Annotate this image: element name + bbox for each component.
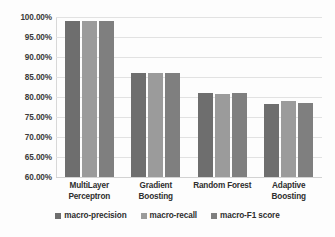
legend-item[interactable]: macro-recall [141,211,198,220]
legend-swatch-icon [211,213,217,219]
x-axis: MultiLayer PerceptronGradient BoostingRa… [56,179,322,209]
y-axis: 100.00%95.00%90.00%85.00%80.00%75.00%70.… [0,0,52,237]
y-axis-tick-label: 80.00% [0,93,52,102]
x-axis-category-label: MultiLayer Perceptron [56,179,123,209]
y-axis-tick-label: 85.00% [0,73,52,82]
y-axis-tick-label: 90.00% [0,53,52,62]
legend-item[interactable]: macro-F1 score [211,211,280,220]
plot-area [56,17,322,177]
bar [264,104,279,177]
bar [165,73,180,177]
y-axis-tick-label: 95.00% [0,33,52,42]
bar [281,101,296,177]
y-axis-tick-label: 60.00% [0,173,52,182]
bar [198,93,213,177]
bar [298,103,313,177]
bar-groups [56,17,322,177]
bar-group [189,17,256,177]
bar [215,94,230,177]
bar-group [123,17,190,177]
legend-item[interactable]: macro-precision [55,211,126,220]
bar [65,21,80,177]
y-axis-tick-label: 100.00% [0,13,52,22]
bar [148,73,163,177]
legend-label: macro-recall [150,211,198,220]
legend-swatch-icon [141,213,147,219]
x-axis-category-label: Random Forest [189,179,256,209]
y-axis-tick-label: 70.00% [0,133,52,142]
x-axis-category-label: Gradient Boosting [123,179,190,209]
chart-legend: macro-precisionmacro-recallmacro-F1 scor… [0,211,335,220]
bar [82,21,97,177]
bar [232,93,247,177]
x-axis-category-label: Adaptive Boosting [256,179,323,209]
legend-swatch-icon [55,213,61,219]
legend-label: macro-F1 score [220,211,280,220]
bar [131,73,146,177]
y-axis-tick-label: 65.00% [0,153,52,162]
gridline [56,177,322,178]
bar-group [256,17,323,177]
y-axis-tick-label: 75.00% [0,113,52,122]
bar-chart: 100.00%95.00%90.00%85.00%80.00%75.00%70.… [0,0,335,237]
bar [99,21,114,177]
legend-label: macro-precision [64,211,126,220]
bar-group [56,17,123,177]
